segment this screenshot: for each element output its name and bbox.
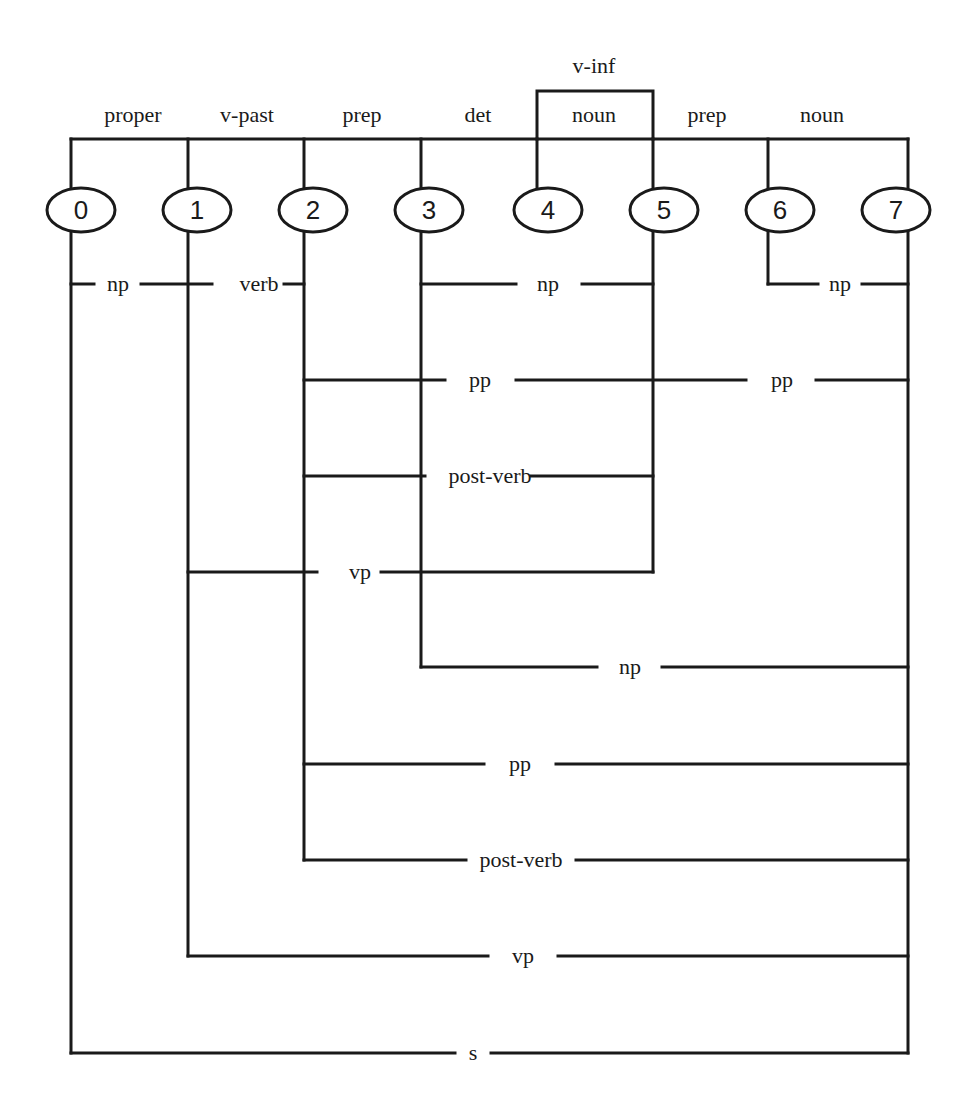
edge-np-6-7: np <box>829 271 851 296</box>
lexical-labels: proper v-past prep det noun v-inf prep n… <box>104 53 844 127</box>
node-7: 7 <box>862 188 930 232</box>
edge-pp-5-7: pp <box>771 367 793 392</box>
svg-text:6: 6 <box>773 195 787 225</box>
svg-text:1: 1 <box>190 195 204 225</box>
svg-text:3: 3 <box>422 195 436 225</box>
node-5: 5 <box>630 188 698 232</box>
label-noun-1: noun <box>572 102 616 127</box>
chart-parse-diagram: proper v-past prep det noun v-inf prep n… <box>0 0 973 1115</box>
label-noun-2: noun <box>800 102 844 127</box>
label-prep-2: prep <box>687 102 726 127</box>
edge-post-verb-2-7: post-verb <box>479 847 562 872</box>
svg-text:2: 2 <box>306 195 320 225</box>
edge-np-0-1: np <box>107 271 129 296</box>
phrase-edges: np verb np np pp pp post-verb vp np pp <box>71 271 908 1065</box>
node-1: 1 <box>163 188 231 232</box>
node-0: 0 <box>47 188 115 232</box>
label-prep-1: prep <box>342 102 381 127</box>
edge-pp-2-7: pp <box>509 751 531 776</box>
node-6: 6 <box>746 188 814 232</box>
svg-text:4: 4 <box>541 195 555 225</box>
svg-text:5: 5 <box>657 195 671 225</box>
edge-post-verb-2-5: post-verb <box>448 463 531 488</box>
edge-s-0-7: s <box>469 1040 478 1065</box>
edge-pp-2-5: pp <box>469 367 491 392</box>
label-det: det <box>465 102 492 127</box>
svg-text:7: 7 <box>889 195 903 225</box>
edge-verb-1-2: verb <box>239 271 278 296</box>
edge-np-3-5: np <box>537 271 559 296</box>
node-2: 2 <box>279 188 347 232</box>
node-3: 3 <box>395 188 463 232</box>
label-v-inf: v-inf <box>573 53 616 78</box>
node-4: 4 <box>514 188 582 232</box>
edge-vp-1-7: vp <box>512 943 534 968</box>
node-stems <box>71 230 908 1053</box>
label-v-past: v-past <box>220 102 274 127</box>
svg-text:0: 0 <box>74 195 88 225</box>
edge-np-3-7: np <box>619 654 641 679</box>
label-proper: proper <box>104 102 162 127</box>
edge-vp-1-5: vp <box>349 559 371 584</box>
nodes: 0 1 2 3 4 5 6 7 <box>47 188 930 232</box>
